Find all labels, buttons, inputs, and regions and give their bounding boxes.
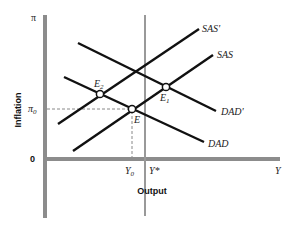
point-e1 bbox=[162, 83, 169, 90]
x-axis-title: Output bbox=[137, 186, 167, 196]
sas-label: SAS bbox=[217, 49, 233, 60]
y-axis-title: Inflation bbox=[13, 93, 23, 128]
guides bbox=[47, 109, 132, 157]
point-e-label: E bbox=[133, 114, 140, 125]
curves bbox=[58, 29, 216, 151]
dad-prime-label: DAD' bbox=[220, 106, 245, 117]
sas-prime-label: SAS' bbox=[202, 23, 221, 34]
y-axis-top-label: π bbox=[31, 12, 36, 23]
y0-label: Y0 bbox=[125, 165, 135, 178]
economics-diagram: SAS' SAS DAD' DAD E E1 E2 π π0 0 Inflati… bbox=[0, 0, 296, 230]
pi0-label-sub: 0 bbox=[33, 108, 37, 116]
point-e2-label-main: E bbox=[93, 78, 100, 89]
origin-label: 0 bbox=[30, 154, 35, 164]
point-e2-label: E2 bbox=[93, 78, 104, 91]
ystar-label: Y* bbox=[149, 165, 160, 176]
x-axis-end-label: Y bbox=[275, 165, 282, 176]
pi0-label: π0 bbox=[28, 103, 37, 116]
point-e2-label-sub: 2 bbox=[100, 83, 104, 91]
point-e1-label-main: E bbox=[159, 92, 166, 103]
point-e2 bbox=[96, 90, 103, 97]
point-e1-label: E1 bbox=[159, 92, 170, 105]
dad-label: DAD bbox=[207, 138, 229, 149]
y0-label-sub: 0 bbox=[131, 170, 135, 178]
point-e1-label-sub: 1 bbox=[166, 97, 170, 105]
point-e bbox=[128, 105, 135, 112]
